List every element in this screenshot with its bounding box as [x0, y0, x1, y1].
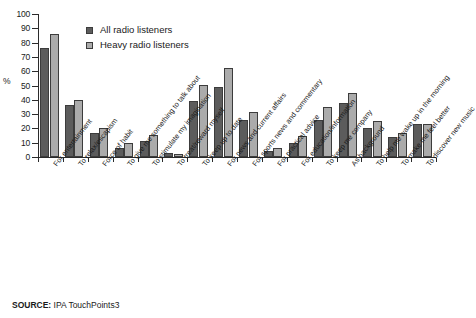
y-tick-label: 10	[4, 139, 30, 148]
legend-item: All radio listeners	[86, 25, 189, 35]
source-text: IPA TouchPoints3	[54, 300, 120, 310]
y-tick-label: 0	[4, 153, 30, 162]
x-tick	[38, 158, 39, 162]
legend-item: Heavy radio listeners	[86, 40, 189, 50]
legend-swatch-icon	[86, 42, 93, 49]
source-label: SOURCE:	[12, 300, 51, 310]
source-note: SOURCE: IPA TouchPoints3	[12, 300, 119, 310]
y-tick-label: 40	[4, 96, 30, 105]
y-tick-label: 30	[4, 110, 30, 119]
y-tick-label: 50	[4, 82, 30, 91]
bar	[50, 34, 59, 157]
y-tick-label: 70	[4, 53, 30, 62]
y-tick-label: 60	[4, 67, 30, 76]
chart-legend: All radio listenersHeavy radio listeners	[86, 25, 189, 55]
y-tick-label: 80	[4, 39, 30, 48]
legend-swatch-icon	[86, 27, 93, 34]
bar	[40, 48, 49, 157]
legend-label: Heavy radio listeners	[100, 40, 189, 50]
y-tick-label: 20	[4, 124, 30, 133]
bar-group	[38, 14, 63, 157]
y-tick-label: 90	[4, 24, 30, 33]
legend-label: All radio listeners	[100, 25, 172, 35]
y-tick-label: 100	[4, 10, 30, 19]
